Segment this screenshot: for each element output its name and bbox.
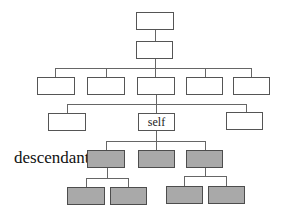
edge [55, 68, 56, 77]
descendant-node [67, 187, 105, 205]
edge [86, 178, 129, 179]
descendant-node [186, 150, 223, 168]
sibling-of-parent-node [87, 77, 125, 95]
edge [106, 141, 206, 142]
tree-diagram: self descendant [0, 0, 281, 215]
edge [106, 68, 107, 77]
edge [55, 68, 252, 69]
descendant-node [208, 186, 245, 204]
sibling-node [48, 113, 86, 131]
self-node: self [138, 113, 175, 131]
sibling-of-parent-node [37, 77, 75, 95]
descendant-node [87, 150, 125, 168]
edge [184, 176, 227, 177]
sibling-of-parent-node [233, 77, 270, 95]
parent-of-self-node [137, 77, 175, 95]
edge [226, 176, 227, 186]
sibling-of-parent-node [186, 77, 223, 95]
edge [86, 178, 87, 187]
root-node [136, 12, 174, 30]
edge [205, 168, 206, 176]
edge [67, 104, 247, 105]
edge [246, 104, 247, 112]
edge [67, 104, 68, 113]
edge [184, 176, 185, 186]
edge [251, 68, 252, 77]
edge [128, 178, 129, 187]
edge [155, 30, 156, 41]
self-label: self [148, 115, 165, 130]
edge [106, 141, 107, 150]
edge [107, 168, 108, 178]
descendant-node [138, 150, 175, 168]
edge [205, 141, 206, 150]
descendant-node [166, 186, 203, 204]
parent-node [136, 41, 173, 59]
descendant-label: descendant [14, 148, 90, 168]
descendant-node [110, 187, 147, 205]
edge [205, 68, 206, 77]
sibling-node [226, 112, 263, 130]
